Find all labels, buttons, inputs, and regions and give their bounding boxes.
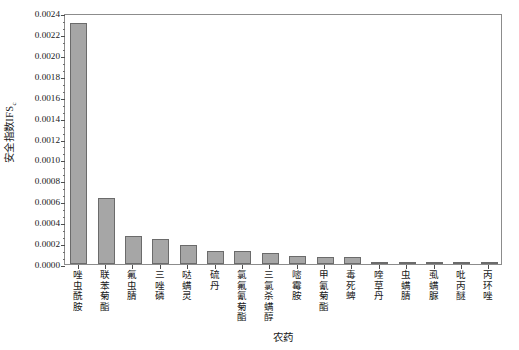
- x-axis-label-char: 腈: [399, 291, 413, 302]
- x-axis-category-label: 虱螨脲: [427, 270, 441, 302]
- bar: [426, 262, 443, 264]
- y-axis-minor-tick-mark: [63, 127, 66, 128]
- y-axis-minor-tick-mark: [63, 106, 66, 107]
- x-axis-category-label: 三氯杀螨醇: [262, 270, 276, 323]
- x-axis-label-char: 醇: [262, 312, 276, 323]
- bar: [399, 262, 416, 264]
- x-axis-label-char: 丹: [208, 281, 222, 292]
- bar: [234, 251, 251, 264]
- bar: [207, 251, 224, 264]
- x-axis-label-char: 三: [153, 270, 167, 281]
- x-axis-category-label: 甲氰菊酯: [317, 270, 331, 312]
- y-axis-title-text: 安全指数IFSc: [4, 102, 17, 163]
- y-axis-minor-tick-mark: [63, 154, 66, 155]
- x-axis-category-label: 联苯菊酯: [98, 270, 112, 312]
- y-axis-minor-tick-mark: [63, 189, 66, 190]
- x-axis-category-label: 硫丹: [208, 270, 222, 291]
- y-axis-tick-label: 0.0018: [35, 72, 60, 82]
- y-axis-minor-tick-mark: [63, 175, 66, 176]
- bar: [371, 262, 388, 264]
- x-axis-category-label: 虫螨腈: [399, 270, 413, 302]
- y-axis-tick-mark: [61, 36, 65, 37]
- bar: [180, 245, 197, 264]
- y-axis-minor-tick-mark: [63, 210, 66, 211]
- y-axis-minor-tick-mark: [63, 252, 66, 253]
- y-axis-minor-tick-mark: [63, 64, 66, 65]
- x-axis-label-char: 虱: [427, 270, 441, 281]
- bar: [481, 262, 498, 264]
- x-axis-label-char: 甲: [317, 270, 331, 281]
- bar: [98, 198, 115, 264]
- plot-area: [64, 14, 502, 265]
- y-axis-minor-tick-mark: [63, 134, 66, 135]
- x-axis-label-char: 哒: [180, 270, 194, 281]
- bar: [125, 236, 142, 264]
- x-axis-category-label: 三唑磷: [153, 270, 167, 302]
- x-axis-label-char: 嘧: [290, 270, 304, 281]
- y-axis-tick-label: 0.0010: [35, 155, 60, 165]
- y-axis-tick-label: 0.0000: [35, 260, 60, 270]
- y-axis-minor-tick-mark: [63, 231, 66, 232]
- x-axis-label-char: 硫: [208, 270, 222, 281]
- bars-layer: [65, 15, 501, 264]
- x-axis-category-label: 氯氟氰菊酯: [235, 270, 249, 323]
- y-axis-minor-tick-mark: [63, 168, 66, 169]
- x-axis-label-char: 脲: [427, 291, 441, 302]
- bar: [344, 257, 361, 264]
- x-axis-label-char: 灵: [180, 291, 194, 302]
- y-axis-tick-label: 0.0022: [35, 30, 60, 40]
- x-axis-category-labels: 唑虫酰胺联苯菊酯氟虫腈三唑磷哒螨灵硫丹氯氟氰菊酯三氯杀螨醇嘧霉胺甲氰菊酯毒死蜱喹…: [64, 270, 502, 328]
- x-axis-category-label: 丙环唑: [481, 270, 495, 302]
- y-axis-minor-tick-mark: [63, 29, 66, 30]
- bar: [289, 256, 306, 264]
- x-axis-label-char: 唑: [71, 270, 85, 281]
- y-axis-tick-label: 0.0008: [35, 176, 60, 186]
- y-axis-minor-tick-mark: [63, 238, 66, 239]
- y-axis-title-main: 安全指数IFS: [3, 106, 14, 163]
- x-axis-label-char: 丹: [372, 291, 386, 302]
- x-axis-category-label: 嘧霉胺: [290, 270, 304, 302]
- x-axis-label-char: 吡: [454, 270, 468, 281]
- y-axis-tick-label: 0.0004: [35, 218, 60, 228]
- y-axis-tick-mark: [61, 99, 65, 100]
- y-axis-tick-label: 0.0020: [35, 51, 60, 61]
- y-axis-tick-mark: [61, 141, 65, 142]
- y-axis-minor-tick-mark: [63, 71, 66, 72]
- y-axis-tick-label: 0.0002: [35, 239, 60, 249]
- bar: [317, 257, 334, 264]
- x-axis-category-label: 毒死蜱: [344, 270, 358, 302]
- x-axis-label-char: 酯: [235, 312, 249, 323]
- y-axis-tick-mark: [61, 245, 65, 246]
- y-axis-tick-mark: [61, 78, 65, 79]
- x-axis-label-char: 氯: [235, 270, 249, 281]
- y-axis-tick-mark: [61, 203, 65, 204]
- bar: [152, 239, 169, 264]
- y-axis-tick-mark: [61, 57, 65, 58]
- bar-chart: 安全指数IFSc 0.00000.00020.00040.00060.00080…: [0, 0, 519, 350]
- x-axis-label-char: 联: [98, 270, 112, 281]
- x-axis-label-char: 胺: [290, 291, 304, 302]
- x-axis-label-char: 胺: [71, 302, 85, 313]
- y-axis-minor-tick-mark: [63, 92, 66, 93]
- y-axis-minor-tick-mark: [63, 147, 66, 148]
- x-axis-category-label: 哒螨灵: [180, 270, 194, 302]
- x-axis-label-char: 酯: [317, 302, 331, 313]
- y-axis-tick-mark: [61, 120, 65, 121]
- x-axis-label-char: 唑: [481, 291, 495, 302]
- y-axis-minor-tick-mark: [63, 85, 66, 86]
- x-axis-category-label: 喹草丹: [372, 270, 386, 302]
- y-axis-tick-label: 0.0006: [35, 197, 60, 207]
- y-axis-tick-mark: [61, 161, 65, 162]
- y-axis-minor-tick-mark: [63, 113, 66, 114]
- x-axis-label-char: 丙: [481, 270, 495, 281]
- y-axis-minor-tick-mark: [63, 217, 66, 218]
- x-axis-label-char: 毒: [344, 270, 358, 281]
- x-axis-category-label: 唑虫酰胺: [71, 270, 85, 312]
- y-axis-minor-tick-mark: [63, 22, 66, 23]
- y-axis-tick-label: 0.0012: [35, 135, 60, 145]
- x-axis-label-char: 磷: [153, 291, 167, 302]
- y-axis-tick-mark: [61, 224, 65, 225]
- x-axis-category-label: 吡丙醚: [454, 270, 468, 302]
- x-axis-label-char: 氟: [125, 270, 139, 281]
- y-axis-title-subscript: c: [10, 102, 18, 105]
